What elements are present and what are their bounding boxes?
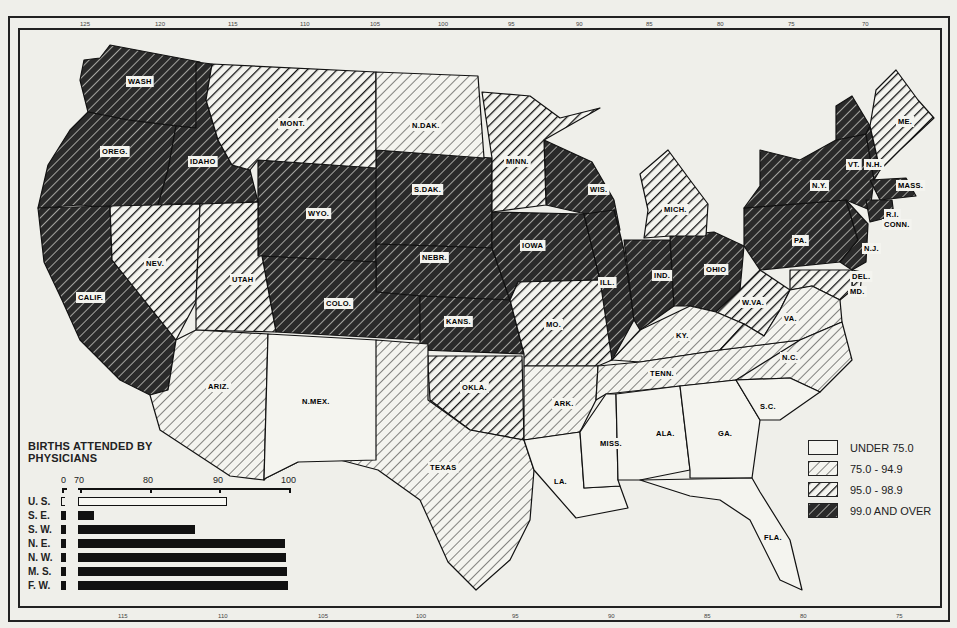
bar-ne — [78, 539, 285, 548]
bar-us — [78, 497, 227, 506]
label-wyo: WYO. — [308, 209, 329, 218]
bar-nw — [78, 553, 286, 562]
label-ri: R.I. — [886, 210, 899, 219]
label-md: MD. — [850, 287, 865, 296]
label-ind: IND. — [654, 271, 670, 280]
legend-item-95-98: 95.0 - 98.9 — [808, 479, 948, 500]
label-iowa: IOWA — [522, 241, 543, 250]
bar-row-fw: F. W. — [28, 580, 308, 591]
bar-fw — [78, 581, 288, 590]
chart-axis-tick — [150, 488, 152, 493]
label-la: LA. — [554, 477, 567, 486]
label-conn: CONN. — [884, 220, 910, 229]
map-legend: UNDER 75.0 75.0 - 94.9 95.0 - 98.9 99.0 … — [808, 437, 948, 521]
label-miss: MISS. — [600, 439, 622, 448]
label-wis: WIS. — [590, 185, 607, 194]
label-ohio: OHIO — [706, 265, 726, 274]
label-tenn: TENN. — [650, 369, 674, 378]
label-mass: MASS. — [898, 181, 923, 190]
axis-tick-80: 80 — [143, 475, 153, 485]
bar-stub — [61, 539, 66, 548]
state-mich — [640, 150, 708, 238]
label-wash: WASH — [128, 77, 152, 86]
label-mont: MONT. — [280, 119, 305, 128]
label-pa: PA. — [794, 236, 807, 245]
legend-label: 95.0 - 98.9 — [850, 484, 903, 496]
label-vt: VT. — [848, 160, 860, 169]
label-mich: MICH. — [664, 205, 687, 214]
state-vt — [836, 96, 870, 140]
legend-item-99-over: 99.0 AND OVER — [808, 500, 948, 521]
chart-title: BIRTHS ATTENDED BY PHYSICIANS — [28, 440, 308, 464]
bar-category-label: N. W. — [28, 552, 58, 563]
bar-ms — [78, 567, 287, 576]
bar-stub — [61, 525, 66, 534]
state-mont — [206, 64, 376, 170]
label-nh: N.H. — [866, 160, 882, 169]
label-texas: TEXAS — [430, 463, 457, 472]
axis-tick-90: 90 — [213, 475, 223, 485]
label-va: VA. — [784, 314, 797, 323]
bar-row-ne: N. E. — [28, 538, 308, 549]
label-nebr: NEBR. — [422, 253, 447, 262]
bar-se — [78, 511, 94, 520]
swatch-light-hatch-icon — [808, 461, 838, 476]
bar-row-se: S. E. — [28, 510, 308, 521]
state-ala — [616, 386, 690, 480]
chart-axis-tick — [219, 488, 221, 493]
swatch-medium-hatch-icon — [808, 482, 838, 497]
label-nc: N.C. — [782, 353, 798, 362]
chart-axis-break — [62, 488, 67, 493]
state-oreg — [38, 112, 176, 212]
label-okla: OKLA. — [462, 383, 487, 392]
bar-stub — [61, 511, 66, 520]
axis-tick-100: 100 — [281, 475, 296, 485]
bar-row-nw: N. W. — [28, 552, 308, 563]
label-sc: S.C. — [760, 402, 776, 411]
legend-label: 99.0 AND OVER — [850, 505, 931, 517]
legend-label: 75.0 - 94.9 — [850, 463, 903, 475]
label-ga: GA. — [718, 429, 732, 438]
label-oreg: OREG. — [102, 147, 128, 156]
chart-title-line1: BIRTHS ATTENDED BY — [28, 440, 308, 452]
axis-tick-70: 70 — [74, 475, 84, 485]
bar-row-ms: M. S. — [28, 566, 308, 577]
bar-stub — [61, 553, 66, 562]
label-kans: KANS. — [446, 317, 471, 326]
label-calif: CALIF. — [78, 293, 103, 302]
bar-stub — [61, 567, 66, 576]
bar-stub — [61, 497, 65, 506]
label-ariz: ARIZ. — [208, 382, 229, 391]
label-idaho: IDAHO — [190, 157, 216, 166]
legend-item-75-94: 75.0 - 94.9 — [808, 458, 948, 479]
bar-row-sw: S. W. — [28, 524, 308, 535]
bar-category-label: N. E. — [28, 538, 58, 549]
label-nmex: N.MEX. — [302, 397, 330, 406]
label-fla: FLA. — [764, 533, 782, 542]
chart-axis-line — [78, 488, 291, 490]
bar-category-label: F. W. — [28, 580, 58, 591]
births-bar-chart: BIRTHS ATTENDED BY PHYSICIANS 0 70 80 90… — [28, 440, 308, 580]
label-mo: MO. — [546, 320, 561, 329]
state-sdak — [376, 150, 492, 248]
legend-label: UNDER 75.0 — [850, 442, 914, 454]
label-del: DEL. — [852, 272, 870, 281]
label-utah: UTAH — [232, 275, 253, 284]
label-wva: W.VA. — [742, 298, 764, 307]
label-ala: ALA. — [656, 429, 675, 438]
label-minn: MINN. — [506, 157, 529, 166]
bar-stub — [61, 581, 66, 590]
chart-title-line2: PHYSICIANS — [28, 452, 308, 464]
state-ny — [744, 134, 874, 210]
label-colo: COLO. — [326, 299, 351, 308]
bar-category-label: S. W. — [28, 524, 58, 535]
bar-category-label: U. S. — [28, 496, 58, 507]
bar-row-us: U. S. — [28, 496, 308, 507]
chart-axis-tick — [80, 488, 82, 493]
label-ndak: N.DAK. — [412, 121, 440, 130]
label-ny: N.Y. — [812, 181, 827, 190]
label-nev: NEV. — [146, 259, 164, 268]
label-sdak: S.DAK. — [414, 185, 441, 194]
swatch-plain-icon — [808, 440, 838, 455]
bar-category-label: S. E. — [28, 510, 58, 521]
